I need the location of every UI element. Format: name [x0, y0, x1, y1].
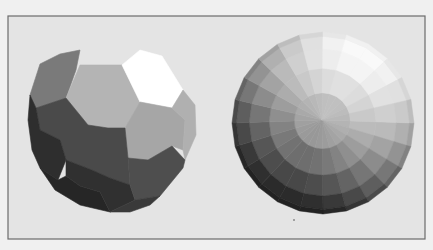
- dust-speck: [293, 219, 295, 221]
- right-sphere: [232, 32, 414, 214]
- figure-canvas: [0, 0, 433, 250]
